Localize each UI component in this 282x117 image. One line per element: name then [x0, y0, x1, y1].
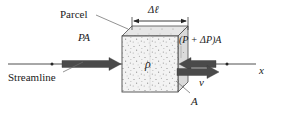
leader-parcel [96, 15, 128, 29]
density-label: ρ [145, 58, 151, 70]
pressure-left-arrow [62, 58, 121, 71]
x-axis-label: x [259, 65, 264, 76]
streamline-dot-left [51, 63, 54, 66]
pressure-left-label: PA [78, 32, 90, 43]
velocity-label: v [199, 77, 204, 88]
thickness-label: Δℓ [148, 5, 159, 16]
area-label: A [191, 96, 198, 107]
diagram-canvas [0, 0, 282, 117]
pressure-right-label: (P + ΔP)A [179, 35, 221, 45]
streamline-dot-right [226, 63, 229, 66]
parcel-label: Parcel [60, 9, 87, 20]
streamline-label: Streamline [8, 72, 56, 83]
fluid-parcel-diagram: Parcel Δℓ PA (P + ΔP)A ρ Streamline v A … [0, 0, 282, 117]
